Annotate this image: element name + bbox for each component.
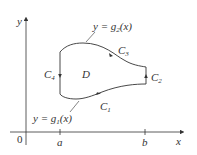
g2-pointer <box>86 32 95 42</box>
c3-arrow-icon <box>109 53 113 57</box>
g2-annotation: y = g2(x) <box>92 20 132 34</box>
region-diagram: y x 0 a b D C1 C2 C3 C4 y = g2(x) y = g1… <box>0 0 197 155</box>
g1-pointer <box>70 101 79 112</box>
c2-arrow-icon <box>144 74 148 78</box>
c2-label: C2 <box>151 71 162 85</box>
c4-label: C4 <box>44 68 55 82</box>
region-label: D <box>81 68 90 80</box>
c1-label: C1 <box>100 100 111 114</box>
tick-a-label: a <box>57 136 63 148</box>
x-axis-label: x <box>175 135 181 147</box>
region-boundary <box>60 43 146 99</box>
tick-b-label: b <box>142 136 148 148</box>
y-axis-label: y <box>16 15 22 27</box>
g1-annotation: y = g1(x) <box>32 112 72 126</box>
c3-label: C3 <box>118 44 129 58</box>
origin-label: 0 <box>17 133 23 145</box>
c4-arrow-icon <box>58 74 62 78</box>
